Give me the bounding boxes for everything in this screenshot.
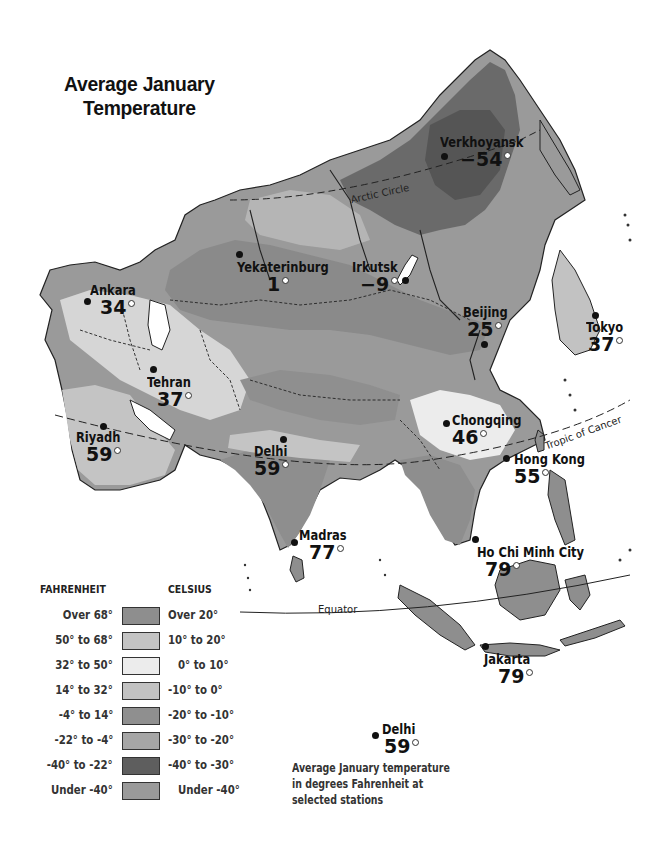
degree-icon bbox=[391, 277, 398, 284]
legend-row: 14° to 32° -10° to 0° bbox=[40, 680, 270, 704]
key-station-temp: 59 bbox=[384, 737, 423, 756]
station-verkhoyansk: Verkhoyansk −54 bbox=[440, 135, 542, 169]
station-yekaterinburg: Yekaterinburg 1 bbox=[237, 260, 349, 294]
station-name: Irkutsk bbox=[352, 260, 398, 275]
legend-celsius-range: Over 20° bbox=[168, 608, 218, 622]
legend-row: Over 68° Over 20° bbox=[40, 605, 270, 629]
station-name: Madras bbox=[299, 528, 347, 543]
legend-row: -4° to 14° -20° to -10° bbox=[40, 705, 270, 729]
degree-icon bbox=[128, 300, 135, 307]
station-name: Verkhoyansk bbox=[440, 135, 523, 150]
station-temp: 59 bbox=[254, 459, 295, 478]
station-temp: 59 bbox=[86, 445, 130, 464]
legend-row: Under -40° Under -40° bbox=[40, 780, 270, 804]
legend-celsius-range: -10° to 0° bbox=[168, 683, 223, 697]
key-description-line: in degrees Fahrenheit at bbox=[292, 776, 456, 792]
station-temp: 37 bbox=[157, 390, 200, 409]
station-name: Jakarta bbox=[484, 652, 530, 667]
legend-celsius-range: -40° to -30° bbox=[168, 758, 234, 772]
station-name: Tokyo bbox=[586, 320, 623, 335]
legend-fahrenheit-range: -22° to -4° bbox=[54, 733, 113, 747]
legend-swatch bbox=[122, 782, 160, 800]
landmass-sulawesi bbox=[565, 575, 590, 610]
station-name: Ho Chi Minh City bbox=[477, 545, 584, 560]
station-riyadh: Riyadh 59 bbox=[76, 430, 130, 464]
station-name: Delhi bbox=[254, 444, 287, 459]
station-name: Yekaterinburg bbox=[237, 260, 329, 275]
legend-celsius-range: 10° to 20° bbox=[168, 633, 226, 647]
station-delhi: Delhi 59 bbox=[254, 444, 295, 478]
station-temp: 34 bbox=[100, 298, 146, 317]
key-station-name: Delhi bbox=[382, 722, 415, 737]
legend-celsius-range: 0° to 10° bbox=[178, 658, 228, 672]
station-hong-kong: Hong Kong 55 bbox=[514, 452, 600, 486]
key-description: Average January temperature in degrees F… bbox=[292, 760, 456, 808]
degree-icon bbox=[185, 392, 192, 399]
station-name: Hong Kong bbox=[514, 452, 585, 467]
station-temp: 55 bbox=[514, 467, 600, 486]
station-dot-delhi bbox=[280, 436, 287, 443]
legend-swatch bbox=[122, 632, 160, 650]
legend-celsius-range: -20° to -10° bbox=[168, 708, 234, 722]
station-dot-hong-kong bbox=[503, 455, 510, 462]
station-name: Beijing bbox=[463, 305, 508, 320]
legend-row: -22° to -4° -30° to -20° bbox=[40, 730, 270, 754]
degree-icon bbox=[480, 430, 487, 437]
legend-swatch bbox=[122, 757, 160, 775]
legend-fahrenheit-range: 14° to 32° bbox=[55, 683, 113, 697]
landmass-lesser-sunda bbox=[560, 620, 625, 646]
station-chongqing: Chongqing 46 bbox=[452, 413, 537, 447]
station-dot-tehran bbox=[150, 366, 157, 373]
degree-icon bbox=[412, 739, 419, 746]
degree-icon bbox=[616, 337, 623, 344]
station-madras: Madras 77 bbox=[299, 528, 357, 562]
station-jakarta: Jakarta 79 bbox=[484, 652, 540, 686]
station-tehran: Tehran 37 bbox=[147, 375, 200, 409]
degree-icon bbox=[282, 277, 289, 284]
degree-icon bbox=[337, 545, 344, 552]
degree-icon bbox=[513, 562, 520, 569]
station-dot-yekaterinburg bbox=[236, 251, 243, 258]
legend-swatch bbox=[122, 657, 160, 675]
key-description-line: Average January temperature bbox=[292, 760, 456, 776]
station-temp: 37 bbox=[588, 335, 631, 354]
key-description-line: selected stations bbox=[292, 792, 456, 808]
key-example-station: Delhi 59 bbox=[382, 722, 423, 756]
station-dot-chongqing bbox=[443, 420, 450, 427]
degree-icon bbox=[542, 469, 549, 476]
station-name: Ankara bbox=[90, 283, 136, 298]
legend-header-fahrenheit: FAHRENHEIT bbox=[40, 583, 106, 596]
station-temp: 46 bbox=[452, 428, 537, 447]
equator-label: Equator bbox=[318, 604, 357, 615]
station-name: Riyadh bbox=[76, 430, 120, 445]
legend-celsius-range: Under -40° bbox=[178, 783, 240, 797]
station-ho-chi-minh-city: Ho Chi Minh City 79 bbox=[477, 545, 608, 579]
legend-header-celsius: CELSIUS bbox=[168, 583, 212, 596]
station-temp: 77 bbox=[309, 543, 357, 562]
legend-swatch bbox=[122, 707, 160, 725]
key-station-dot bbox=[372, 732, 379, 739]
degree-icon bbox=[504, 152, 511, 159]
legend-swatch bbox=[122, 682, 160, 700]
station-name: Chongqing bbox=[452, 413, 521, 428]
legend-celsius-range: -30° to -20° bbox=[168, 733, 234, 747]
degree-icon bbox=[282, 461, 289, 468]
legend-fahrenheit-range: 32° to 50° bbox=[55, 658, 113, 672]
station-name: Tehran bbox=[147, 375, 191, 390]
degree-icon bbox=[526, 669, 533, 676]
degree-icon bbox=[495, 322, 502, 329]
legend-swatch bbox=[122, 732, 160, 750]
legend-row: -40° to -22° -40° to -30° bbox=[40, 755, 270, 779]
degree-icon bbox=[114, 447, 121, 454]
station-temp: −9 bbox=[360, 275, 408, 294]
station-temp: −54 bbox=[460, 150, 542, 169]
station-temp: 79 bbox=[485, 560, 608, 579]
legend-fahrenheit-range: -40° to -22° bbox=[47, 758, 113, 772]
landmass-sumatra bbox=[398, 585, 475, 650]
station-irkutsk: Irkutsk −9 bbox=[352, 260, 408, 294]
legend-fahrenheit-range: -4° to 14° bbox=[58, 708, 113, 722]
station-dot-beijing bbox=[481, 341, 488, 348]
legend-swatch bbox=[122, 607, 160, 625]
station-temp: 1 bbox=[267, 275, 349, 294]
legend-fahrenheit-range: Over 68° bbox=[63, 608, 113, 622]
